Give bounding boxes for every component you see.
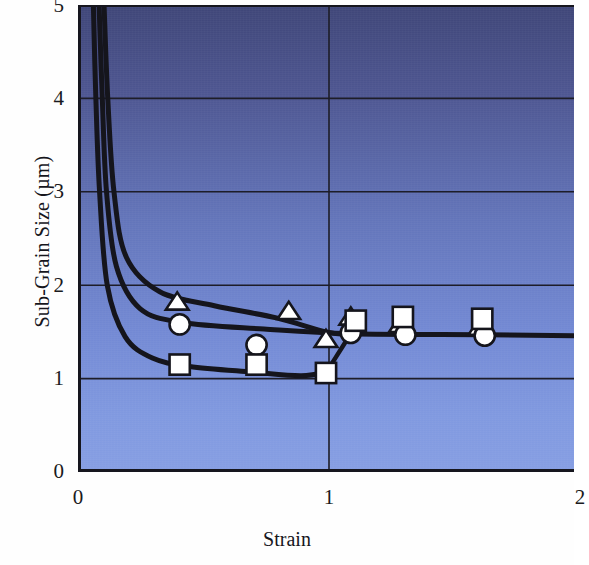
marker-square: [316, 363, 336, 383]
x-axis-title: Strain: [0, 528, 574, 551]
marker-circle: [246, 335, 266, 355]
xtick-label-2: 2: [550, 487, 589, 508]
marker-square: [346, 311, 366, 331]
marker-square: [246, 354, 266, 374]
marker-square: [170, 354, 190, 374]
marker-square: [472, 309, 492, 329]
marker-triangle: [277, 302, 300, 319]
plot-area: [78, 5, 574, 472]
y-axis-title-wrap: Sub-Grain Size (µm): [12, 30, 40, 430]
ytick-label-0: 0: [4, 461, 64, 482]
curve-middle-fit-curve: [99, 5, 574, 336]
data-layer: [78, 5, 574, 472]
xtick-label-0: 0: [48, 487, 108, 508]
xtick-label-1: 1: [299, 487, 359, 508]
marker-circle: [170, 314, 190, 334]
curve-upper-fit-curve: [104, 5, 351, 335]
ytick-label-5: 5: [4, 0, 64, 16]
y-axis-title: Sub-Grain Size (µm): [31, 92, 54, 392]
marker-square: [393, 307, 413, 327]
